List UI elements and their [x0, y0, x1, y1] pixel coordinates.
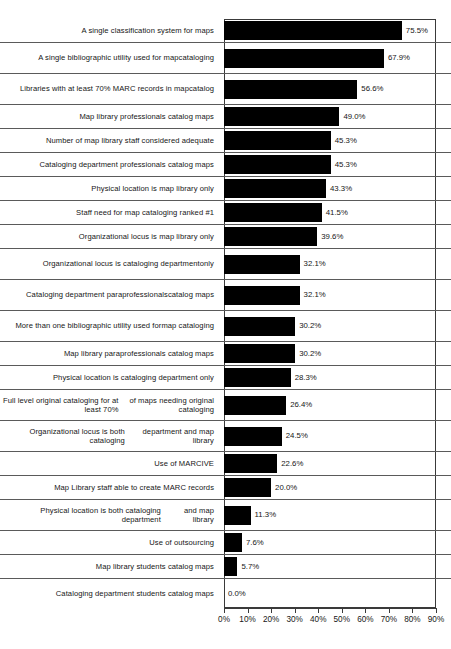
bar-value-label: 7.6% — [242, 539, 264, 547]
bar-value-label: 28.3% — [291, 374, 317, 382]
bar-track: 28.3% — [224, 366, 436, 389]
bar-track: 45.3% — [224, 153, 436, 176]
x-axis-tick — [342, 608, 343, 613]
bar-category-label: Libraries with at least 70% MARC records… — [0, 74, 218, 104]
bar — [224, 21, 402, 40]
bar-track: 32.1% — [224, 280, 436, 310]
bar-value-label: 67.9% — [384, 54, 410, 62]
bar — [224, 49, 384, 68]
x-axis-tick — [271, 608, 272, 613]
x-axis-tick-label: 80% — [404, 615, 420, 624]
x-axis-tick-label: 30% — [286, 615, 302, 624]
bar-track: 32.1% — [224, 249, 436, 279]
bar-track: 67.9% — [224, 43, 436, 73]
table-row: Organizational locus is map library only… — [0, 225, 451, 249]
bar-chart: A single classification system for maps7… — [0, 0, 451, 649]
bar — [224, 203, 322, 222]
bar-category-label: More than one bibliographic utility used… — [0, 311, 218, 341]
table-row: Cataloging department students catalog m… — [0, 579, 451, 608]
x-axis-tick — [365, 608, 366, 613]
bar-category-label: Number of map library staff considered a… — [0, 129, 218, 152]
bar-value-label: 39.6% — [317, 233, 343, 241]
x-axis-tick-label: 60% — [357, 615, 373, 624]
bar-track: 30.2% — [224, 311, 436, 341]
bar-track: 20.0% — [224, 476, 436, 499]
bar-category-label: Physical location is cataloging departme… — [0, 366, 218, 389]
bar-track: 11.3% — [224, 500, 436, 530]
bar — [224, 80, 357, 99]
bar-category-label: Map library paraprofessionals catalog ma… — [0, 342, 218, 365]
bar — [224, 255, 300, 274]
table-row: Number of map library staff considered a… — [0, 129, 451, 153]
bar-category-label: Map Library staff able to create MARC re… — [0, 476, 218, 499]
bar-value-label: 45.3% — [331, 137, 357, 145]
bar-value-label: 32.1% — [300, 260, 326, 268]
table-row: Cataloging department paraprofessionalsc… — [0, 280, 451, 311]
bar-track: 22.6% — [224, 452, 436, 475]
table-row: Physical location is cataloging departme… — [0, 366, 451, 390]
x-axis-tick-label: 70% — [381, 615, 397, 624]
bar-value-label: 43.3% — [326, 185, 352, 193]
bar-track: 39.6% — [224, 225, 436, 248]
bar-category-label: Map library professionals catalog maps — [0, 105, 218, 128]
bar-value-label: 30.2% — [295, 350, 321, 358]
bar-track: 0.0% — [224, 579, 436, 608]
bar-category-label: Organizational locus is map library only — [0, 225, 218, 248]
x-axis-tick-label: 40% — [310, 615, 326, 624]
bar-category-label: Full level original cataloging for at le… — [0, 390, 218, 420]
table-row: A single classification system for maps7… — [0, 19, 451, 43]
bar-value-label: 75.5% — [402, 27, 428, 35]
bar-track: 24.5% — [224, 421, 436, 451]
bar-value-label: 30.2% — [295, 322, 321, 330]
bar-track: 30.2% — [224, 342, 436, 365]
bar-track: 43.3% — [224, 177, 436, 200]
x-axis-tick-label: 10% — [239, 615, 255, 624]
x-axis-tick-labels: 0%10%20%30%40%50%60%70%80%90% — [224, 615, 436, 629]
table-row: Physical location is both cataloging dep… — [0, 500, 451, 531]
table-row: Full level original cataloging for at le… — [0, 390, 451, 421]
bar — [224, 107, 339, 126]
table-row: Cataloging department professionals cata… — [0, 153, 451, 177]
x-axis-tick-label: 20% — [263, 615, 279, 624]
bar-value-label: 49.0% — [339, 113, 365, 121]
bar — [224, 227, 317, 246]
bar-value-label: 11.3% — [251, 511, 277, 519]
bar — [224, 427, 282, 446]
bar-value-label: 45.3% — [331, 161, 357, 169]
table-row: Map library professionals catalog maps49… — [0, 105, 451, 129]
table-row: Physical location is map library only43.… — [0, 177, 451, 201]
bar-category-label: Map library students catalog maps — [0, 555, 218, 578]
bar-value-label: 26.4% — [286, 401, 312, 409]
table-row: Use of MARCIVE22.6% — [0, 452, 451, 476]
bar — [224, 344, 295, 363]
bar — [224, 131, 331, 150]
bar-category-label: Staff need for map cataloging ranked #1 — [0, 201, 218, 224]
x-axis-tick — [318, 608, 319, 613]
bar-category-label: Organizational locus is both catalogingd… — [0, 421, 218, 451]
bar — [224, 533, 242, 552]
bar-value-label: 5.7% — [237, 563, 259, 571]
bar-category-label: Organizational locus is cataloging depar… — [0, 249, 218, 279]
bar-value-label: 41.5% — [322, 209, 348, 217]
table-row: Organizational locus is cataloging depar… — [0, 249, 451, 280]
table-row: More than one bibliographic utility used… — [0, 311, 451, 342]
table-row: Map library paraprofessionals catalog ma… — [0, 342, 451, 366]
x-axis-tick — [436, 608, 437, 613]
bar — [224, 317, 295, 336]
table-row: Organizational locus is both catalogingd… — [0, 421, 451, 452]
x-axis-tick — [248, 608, 249, 613]
bar-track: 45.3% — [224, 129, 436, 152]
table-row: A single bibliographic utility used for … — [0, 43, 451, 74]
bar — [224, 454, 277, 473]
bar-value-label: 32.1% — [300, 291, 326, 299]
bar-category-label: Cataloging department professionals cata… — [0, 153, 218, 176]
bar-track: 7.6% — [224, 531, 436, 554]
bar-category-label: Cataloging department students catalog m… — [0, 579, 218, 608]
x-axis-tick — [295, 608, 296, 613]
bar-value-label: 24.5% — [282, 432, 308, 440]
chart-title — [224, 0, 436, 4]
x-axis-line — [224, 608, 436, 609]
x-axis-tick — [224, 608, 225, 613]
bar — [224, 368, 291, 387]
bar-value-label: 20.0% — [271, 484, 297, 492]
